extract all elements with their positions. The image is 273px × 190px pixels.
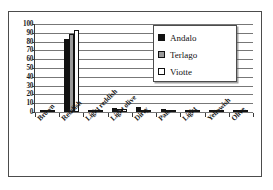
bar-group — [59, 24, 83, 112]
legend-item[interactable]: Andalo — [158, 29, 232, 46]
x-axis-labels: BrownReddishLight reddishLight oliveDirt… — [35, 117, 253, 173]
legend-swatch-icon — [158, 68, 165, 75]
bar[interactable] — [171, 110, 176, 112]
x-axis-tick-mark — [253, 113, 254, 117]
legend-swatch-icon — [158, 51, 165, 58]
y-axis: 1009080706050403020100 — [11, 24, 33, 112]
legend-item[interactable]: Terlago — [158, 46, 232, 63]
legend-label: Viotte — [170, 67, 192, 77]
bar-group — [35, 24, 59, 112]
legend-swatch-icon — [158, 34, 165, 41]
chart-frame: 1009080706050403020100 BrownReddishLight… — [8, 11, 262, 177]
legend-item[interactable]: Viotte — [158, 63, 232, 80]
legend-label: Terlago — [170, 50, 197, 60]
chart-plot-wrapper: 1009080706050403020100 BrownReddishLight… — [9, 12, 263, 178]
legend-label: Andalo — [170, 33, 197, 43]
chart-legend: AndaloTerlagoViotte — [153, 25, 237, 82]
